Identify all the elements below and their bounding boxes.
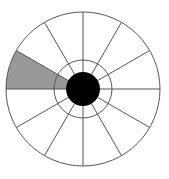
radial-wheel-chart	[0, 0, 169, 179]
center-hub-circle	[66, 72, 100, 106]
radial-diagram-root	[0, 0, 169, 179]
